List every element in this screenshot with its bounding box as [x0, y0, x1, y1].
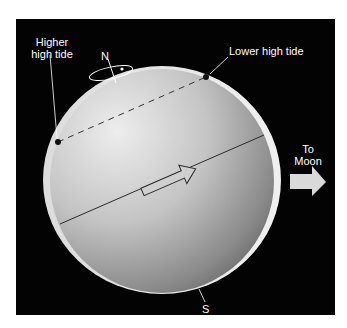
- north-pole-label: N: [101, 50, 109, 62]
- to-moon-label-line2: Moon: [288, 155, 328, 167]
- higher-high-tide-dot: [55, 139, 61, 145]
- lower-high-tide-label: Lower high tide: [229, 45, 304, 57]
- tidal-diagram: Higher high tide Lower high tide N S To …: [0, 0, 347, 328]
- to-moon-label: To Moon: [288, 143, 328, 167]
- higher-high-tide-label-line1: Higher: [30, 36, 74, 48]
- south-pole-label: S: [202, 303, 209, 315]
- to-moon-label-line1: To: [288, 143, 328, 155]
- higher-high-tide-label-line2: high tide: [30, 48, 74, 60]
- lower-high-tide-dot: [203, 74, 209, 80]
- higher-high-tide-label: Higher high tide: [30, 36, 74, 60]
